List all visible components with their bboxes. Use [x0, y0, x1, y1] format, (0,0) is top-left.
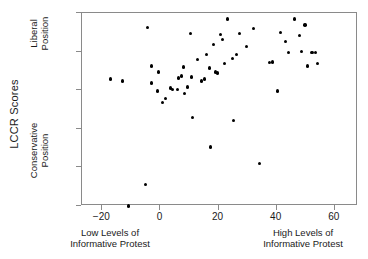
data-point	[310, 51, 313, 54]
data-point	[276, 89, 279, 92]
data-point	[164, 97, 167, 100]
data-point	[219, 33, 222, 36]
data-point	[205, 53, 208, 56]
data-point	[171, 88, 174, 91]
data-point	[216, 71, 219, 74]
data-point	[157, 70, 160, 73]
data-point	[221, 38, 224, 41]
data-point	[298, 34, 301, 37]
y-tick-mark	[76, 128, 81, 129]
x-axis-right-annotation: High Levels ofInformative Protest	[243, 227, 363, 249]
x-right-line: Informative Protest	[243, 238, 363, 249]
y-tick-mark	[76, 89, 81, 90]
y-top-line: Position	[39, 0, 50, 77]
data-point	[232, 119, 235, 122]
data-point	[109, 77, 112, 80]
data-point	[146, 26, 149, 29]
y-bottom-line: Conservative	[29, 108, 40, 194]
data-point	[316, 62, 319, 65]
data-point	[252, 27, 255, 30]
data-point	[271, 60, 274, 63]
x-tick-label: −20	[81, 211, 121, 222]
data-point	[212, 43, 215, 46]
data-point	[223, 62, 226, 65]
x-tick-mark	[276, 205, 277, 210]
data-point	[258, 162, 261, 165]
data-point	[203, 77, 206, 80]
data-point	[231, 57, 234, 60]
y-axis-bottom-annotation: ConservativePosition	[29, 108, 50, 194]
x-tick-mark	[334, 205, 335, 210]
data-point	[156, 89, 159, 92]
data-point	[150, 64, 153, 67]
x-tick-mark	[159, 205, 160, 210]
y-bottom-line: Position	[39, 108, 50, 194]
y-axis-top-annotation: LiberalPosition	[29, 0, 50, 77]
data-point	[314, 51, 317, 54]
x-axis-left-annotation: Low Levels ofInformative Protest	[50, 227, 170, 249]
data-point	[293, 17, 296, 20]
data-points-layer	[82, 13, 356, 204]
data-point	[306, 64, 309, 67]
data-point	[189, 32, 192, 35]
data-point	[183, 92, 186, 95]
data-point	[190, 75, 193, 78]
x-left-line: Low Levels of	[50, 227, 170, 238]
data-point	[226, 17, 229, 20]
y-tick-mark	[76, 51, 81, 52]
data-point	[150, 81, 153, 84]
data-point	[235, 53, 238, 56]
x-tick-mark	[101, 205, 102, 210]
data-point	[279, 31, 282, 34]
y-top-line: Liberal	[29, 0, 40, 77]
x-tick-label: 40	[256, 211, 296, 222]
data-point	[161, 101, 164, 104]
y-axis-title: LCCR Scores	[8, 54, 20, 174]
data-point	[209, 145, 212, 148]
y-tick-mark	[76, 12, 81, 13]
x-tick-label: 20	[198, 211, 238, 222]
scatter-plot-figure: LCCR Scores LiberalPosition Conservative…	[0, 0, 368, 259]
data-point	[196, 58, 199, 61]
data-point	[284, 40, 287, 43]
data-point	[176, 88, 179, 91]
x-axis: −200204060	[81, 205, 357, 225]
x-right-line: High Levels of	[243, 227, 363, 238]
data-point	[208, 66, 211, 69]
x-tick-mark	[218, 205, 219, 210]
data-point	[182, 65, 185, 68]
x-tick-label: 0	[139, 211, 179, 222]
data-point	[245, 45, 248, 48]
data-point	[180, 74, 183, 77]
y-tick-mark	[76, 166, 81, 167]
x-tick-label: 60	[314, 211, 354, 222]
plot-area	[81, 12, 357, 205]
y-axis: 020406080100	[81, 12, 82, 205]
data-point	[238, 32, 241, 35]
data-point	[144, 183, 147, 186]
data-point	[303, 23, 306, 26]
data-point	[287, 51, 290, 54]
data-point	[300, 50, 303, 53]
x-left-line: Informative Protest	[50, 238, 170, 249]
data-point	[186, 85, 189, 88]
data-point	[121, 79, 124, 82]
data-point	[191, 116, 194, 119]
